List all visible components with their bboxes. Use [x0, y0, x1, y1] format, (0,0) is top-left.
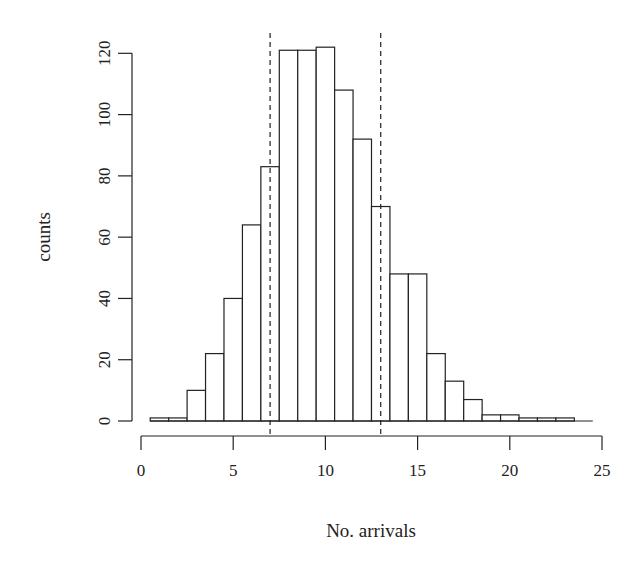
histogram-bar — [353, 139, 371, 421]
histogram-bar — [390, 274, 408, 421]
x-tick-label: 15 — [409, 461, 426, 480]
x-tick-label: 20 — [501, 461, 518, 480]
histogram-bar — [427, 354, 445, 421]
histogram-bar — [482, 415, 500, 421]
histogram-bar — [206, 354, 224, 421]
y-tick-label: 100 — [95, 102, 114, 128]
y-axis: 020406080100120 — [95, 41, 132, 426]
histogram-bar — [316, 47, 334, 421]
y-tick-label: 120 — [95, 41, 114, 67]
y-tick-label: 80 — [95, 167, 114, 184]
histogram-bar — [335, 90, 353, 421]
histogram-bar — [224, 298, 242, 421]
y-axis-title: counts — [33, 212, 54, 262]
y-tick-label: 40 — [95, 290, 114, 307]
histogram-chart: 020406080100120 0510152025 counts No. ar… — [0, 0, 640, 573]
x-tick-label: 0 — [137, 461, 146, 480]
histogram-plot: 020406080100120 0510152025 counts No. ar… — [0, 0, 640, 573]
histogram-bars — [150, 47, 574, 421]
x-tick-label: 25 — [594, 461, 611, 480]
x-axis: 0510152025 — [137, 436, 611, 480]
x-tick-label: 10 — [317, 461, 334, 480]
y-tick-label: 60 — [95, 229, 114, 246]
histogram-bar — [408, 274, 426, 421]
x-axis-title: No. arrivals — [326, 520, 416, 541]
histogram-bar — [187, 390, 205, 421]
y-tick-label: 20 — [95, 351, 114, 368]
histogram-bar — [298, 50, 316, 421]
histogram-bar — [242, 225, 260, 421]
y-tick-label: 0 — [95, 417, 114, 426]
histogram-bar — [464, 400, 482, 421]
histogram-bar — [279, 50, 297, 421]
histogram-bar — [501, 415, 519, 421]
histogram-bar — [445, 381, 463, 421]
x-tick-label: 5 — [229, 461, 238, 480]
